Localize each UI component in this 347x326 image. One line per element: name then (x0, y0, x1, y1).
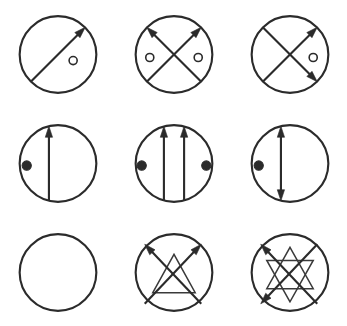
inner-star-triangle-up (267, 247, 313, 288)
circle-with-x-two-up-arrows-and-inner-triangle (116, 218, 232, 326)
circle-outline (20, 234, 97, 311)
filled-marker-left (137, 161, 146, 170)
panel-8-canvas (116, 218, 232, 326)
panel-3-canvas (232, 0, 347, 109)
circle-with-single-diagonal-arrow-and-one-open-marker (0, 0, 116, 109)
open-marker-right (69, 57, 77, 65)
circle-outline (136, 125, 213, 202)
open-marker-right (194, 53, 202, 61)
panel-9-canvas (232, 218, 347, 326)
circle-with-x-crossing-two-right-arrows-and-one-open-marker (232, 0, 347, 109)
panel-7-canvas (0, 218, 116, 326)
circle-with-two-parallel-up-arrow-chords-and-two-filled-markers (116, 109, 232, 218)
circle-with-x-two-left-arrows-and-inner-six-pointed-star (232, 218, 347, 326)
open-marker-right (309, 53, 317, 61)
diagonal-sw-ne (145, 250, 196, 304)
diagonal-sw-ne (263, 33, 312, 82)
circle-with-vertical-up-arrow-chord-and-one-filled-marker (0, 109, 116, 218)
panel-5-canvas (116, 109, 232, 218)
panel-2-canvas (116, 0, 232, 109)
filled-marker-left (22, 161, 31, 170)
figure-grid (0, 0, 347, 326)
circle-with-x-crossing-two-up-arrows-and-two-open-markers (116, 0, 232, 109)
inner-star-triangle-down (267, 260, 313, 301)
diagonal-ne-sw (266, 244, 317, 298)
panel-4-canvas (0, 109, 116, 218)
panel-1-canvas (0, 0, 116, 109)
panel-6-canvas (232, 109, 347, 218)
filled-marker-left (254, 161, 263, 170)
open-marker-left (146, 53, 154, 61)
circle-with-double-headed-vertical-chord-and-one-filled-marker (232, 109, 347, 218)
diagonal-nw-se (263, 27, 312, 76)
empty-circle (0, 218, 116, 326)
filled-marker-right (202, 161, 211, 170)
